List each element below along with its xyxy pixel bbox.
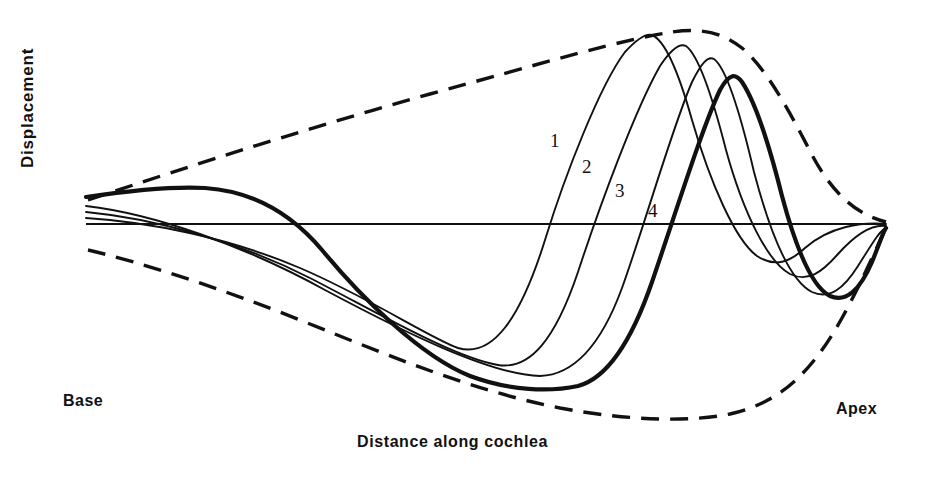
y-axis-label: Displacement — [18, 48, 38, 168]
x-axis-label: Distance along cochlea — [357, 433, 548, 451]
base-end-label: Base — [63, 392, 103, 410]
cochlear-wave-figure: Displacement Distance along cochlea Base… — [0, 0, 925, 481]
curve-number-label: 1 — [550, 130, 560, 152]
wave-curve-lower-envelope — [88, 228, 886, 419]
apex-end-label: Apex — [836, 400, 877, 418]
wave-curve-2 — [86, 45, 886, 365]
wave-curve-1 — [86, 35, 886, 350]
wave-curve-4 — [86, 76, 886, 389]
curve-number-label: 2 — [582, 156, 592, 178]
curve-number-label: 3 — [615, 180, 625, 202]
wave-curve-upper-envelope — [88, 31, 886, 222]
wave-curve-3 — [86, 58, 886, 376]
plot-canvas — [0, 0, 925, 481]
curve-number-label: 4 — [648, 200, 658, 222]
